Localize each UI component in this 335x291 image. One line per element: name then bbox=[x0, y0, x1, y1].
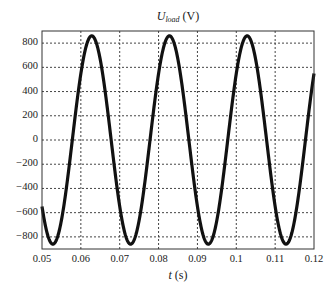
xlabel-unit: (s) bbox=[175, 268, 188, 282]
x-tick-label: 0.07 bbox=[111, 253, 129, 264]
x-tick-label: 0.06 bbox=[72, 253, 90, 264]
x-tick-label: 0.08 bbox=[149, 253, 167, 264]
y-tick-label: 0 bbox=[33, 133, 38, 144]
xlabel-symbol: t bbox=[168, 268, 171, 282]
x-axis-label: t (s) bbox=[42, 268, 314, 283]
x-tick-label: 0.1 bbox=[230, 253, 243, 264]
x-tick-label: 0.05 bbox=[33, 253, 51, 264]
y-tick-label: 200 bbox=[22, 109, 38, 120]
y-tick-label: −800 bbox=[16, 230, 38, 241]
y-tick-label: −600 bbox=[16, 206, 38, 217]
y-tick-label: −400 bbox=[16, 181, 38, 192]
y-tick-label: 600 bbox=[22, 60, 38, 71]
y-tick-label: 800 bbox=[22, 36, 38, 47]
x-tick-label: 0.12 bbox=[305, 253, 323, 264]
chart: Uload (V) 8006004002000−200−400−600−800 … bbox=[0, 0, 335, 291]
x-tick-label: 0.09 bbox=[188, 253, 206, 264]
x-tick-label: 0.11 bbox=[266, 253, 284, 264]
y-tick-label: 400 bbox=[22, 85, 38, 96]
y-tick-label: −200 bbox=[16, 157, 38, 168]
plot-area bbox=[0, 0, 335, 291]
